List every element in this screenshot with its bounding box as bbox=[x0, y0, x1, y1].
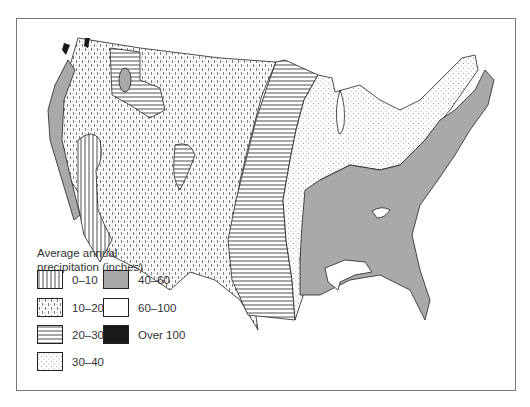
map-legend: Average annual precipitation (inches) 0–… bbox=[37, 246, 237, 274]
dash-dot-swatch-icon bbox=[37, 298, 63, 317]
legend-item-10-20: 10–20 bbox=[37, 298, 104, 317]
legend-item-0-10: 0–10 bbox=[37, 270, 98, 289]
legend-item-40-60: 40–60 bbox=[103, 270, 170, 289]
legend-title-line1: Average annual bbox=[37, 246, 237, 260]
legend-item-20-30: 20–30 bbox=[37, 325, 104, 344]
vertical-lines-swatch-icon bbox=[37, 270, 63, 289]
region-40-60-west-lake bbox=[119, 68, 131, 92]
white-swatch-icon bbox=[103, 298, 129, 317]
legend-item-60-100: 60–100 bbox=[103, 298, 176, 317]
gray-swatch-icon bbox=[103, 270, 129, 289]
legend-item-30-40: 30–40 bbox=[37, 352, 104, 371]
legend-item-over-100: Over 100 bbox=[103, 325, 185, 344]
precipitation-map bbox=[0, 0, 530, 407]
horizontal-lines-swatch-icon bbox=[37, 325, 63, 344]
region-over-100 bbox=[62, 43, 70, 55]
black-swatch-icon bbox=[103, 325, 129, 344]
dots-swatch-icon bbox=[37, 352, 63, 371]
